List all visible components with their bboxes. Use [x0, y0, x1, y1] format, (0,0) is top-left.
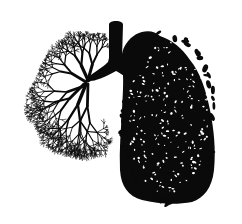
lungs-artwork — [0, 0, 242, 224]
right-lung-leaves — [118, 30, 216, 208]
